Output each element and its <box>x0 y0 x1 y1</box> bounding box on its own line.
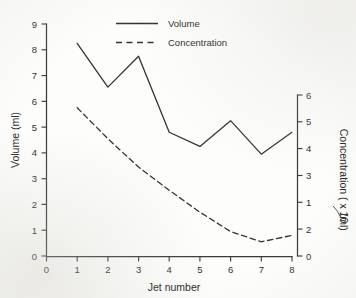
x-axis-tick-labels: 0 1 2 3 4 5 6 7 8 <box>44 264 295 275</box>
line-chart: 9 8 7 6 5 4 3 2 1 0 0 1 2 3 <box>0 0 356 298</box>
left-tick-2: 2 <box>32 199 37 210</box>
x-tick-8: 8 <box>289 264 294 275</box>
left-tick-8: 8 <box>32 44 37 55</box>
left-tick-1: 1 <box>32 225 37 236</box>
y2-axis-title: Concentration ( x 10 /ml) <box>333 129 350 231</box>
right-axis <box>298 95 303 256</box>
x-tick-2: 2 <box>105 264 110 275</box>
right-tick-5: 5 <box>306 116 311 127</box>
left-tick-7: 7 <box>32 70 37 81</box>
legend: Volume Concentration <box>116 18 227 48</box>
x-tick-3: 3 <box>136 264 141 275</box>
x-tick-0: 0 <box>44 264 49 275</box>
left-tick-6: 6 <box>32 96 37 107</box>
x-tick-5: 5 <box>197 264 202 275</box>
right-tick-4: 4 <box>306 143 311 154</box>
y2-axis-title-text: Concentration ( x 10 <box>338 129 350 224</box>
right-axis-tick-labels: 6 5 4 3 1 2 0 <box>306 90 311 262</box>
legend-label-volume: Volume <box>168 18 200 29</box>
left-tick-4: 4 <box>32 147 37 158</box>
right-tick-6: 6 <box>306 90 311 101</box>
x-axis <box>47 257 293 262</box>
y-axis-title: Volume (ml) <box>9 112 21 168</box>
left-tick-9: 9 <box>32 19 37 30</box>
left-tick-3: 3 <box>32 173 37 184</box>
left-axis-tick-labels: 9 8 7 6 5 4 3 2 1 0 <box>32 19 37 262</box>
left-tick-0: 0 <box>32 251 37 262</box>
left-tick-5: 5 <box>32 122 37 133</box>
left-axis <box>42 24 47 256</box>
x-tick-4: 4 <box>167 264 172 275</box>
right-tick-1: 1 <box>306 197 311 208</box>
legend-label-concentration: Concentration <box>168 37 227 48</box>
series-line-concentration <box>77 108 292 242</box>
x-tick-7: 7 <box>259 264 264 275</box>
x-tick-6: 6 <box>228 264 233 275</box>
x-axis-title: Jet number <box>148 281 201 293</box>
right-tick-2: 2 <box>306 224 311 235</box>
right-tick-3: 3 <box>306 170 311 181</box>
chart-figure: 9 8 7 6 5 4 3 2 1 0 0 1 2 3 <box>0 0 356 298</box>
x-tick-1: 1 <box>75 264 80 275</box>
right-tick-0: 0 <box>306 251 311 262</box>
series-line-volume <box>77 43 292 154</box>
